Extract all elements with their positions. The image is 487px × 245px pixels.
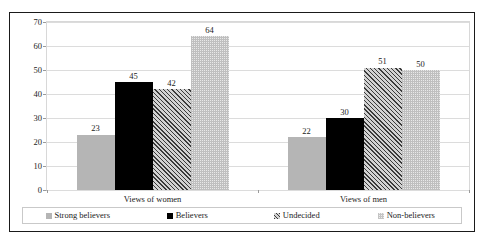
category-axis-tick xyxy=(258,190,259,193)
bar-value-label: 23 xyxy=(91,124,100,133)
chart-screenshot: 010203040506070 2345426422305150 Views o… xyxy=(0,0,487,245)
bar-value-label: 51 xyxy=(378,57,387,66)
legend-swatch-undecided-icon xyxy=(274,213,280,219)
y-axis-tick-label: 0 xyxy=(38,186,42,195)
category-axis-label: Views of women xyxy=(124,195,182,204)
bar: 42 xyxy=(153,89,191,190)
category-axis-tick xyxy=(469,190,470,193)
y-axis-tick-mark xyxy=(43,190,46,191)
legend-label: Strong believers xyxy=(55,211,110,220)
bar: 64 xyxy=(191,36,229,190)
chart-legend: Strong believers Believers Undecided Non… xyxy=(22,207,462,224)
chart-frame: 010203040506070 2345426422305150 Views o… xyxy=(9,12,475,232)
category-axis-label: Views of men xyxy=(340,195,387,204)
y-axis-tick-label: 70 xyxy=(34,18,43,27)
y-axis-tick-mark xyxy=(43,22,46,23)
bar-value-label: 30 xyxy=(340,108,349,117)
bar: 30 xyxy=(326,118,364,190)
y-axis-tick-mark xyxy=(43,142,46,143)
bar-value-label: 45 xyxy=(129,72,138,81)
legend-item: Non-believers xyxy=(352,211,462,220)
bar: 22 xyxy=(288,137,326,190)
y-axis-tick-mark xyxy=(43,70,46,71)
y-axis-tick-label: 60 xyxy=(34,42,43,51)
bar-value-label: 22 xyxy=(302,127,311,136)
bar: 50 xyxy=(402,70,440,190)
legend-label: Non-believers xyxy=(387,211,435,220)
y-axis-tick-label: 50 xyxy=(34,66,43,75)
bar: 23 xyxy=(77,135,115,190)
legend-item: Undecided xyxy=(242,211,352,220)
bar: 51 xyxy=(364,68,402,190)
y-axis-tick-label: 10 xyxy=(34,162,43,171)
legend-item: Believers xyxy=(133,211,243,220)
y-axis-tick-mark xyxy=(43,166,46,167)
plot-area: 010203040506070 2345426422305150 Views o… xyxy=(46,21,470,191)
bar-value-label: 42 xyxy=(167,79,176,88)
y-axis-tick-label: 40 xyxy=(34,90,43,99)
category-axis-tick xyxy=(47,190,48,193)
y-axis-tick-mark xyxy=(43,94,46,95)
legend-label: Believers xyxy=(176,211,208,220)
gridline xyxy=(47,46,469,47)
legend-label: Undecided xyxy=(283,211,320,220)
legend-swatch-believers-icon xyxy=(167,213,173,219)
y-axis-tick-label: 30 xyxy=(34,114,43,123)
legend-item: Strong believers xyxy=(23,211,133,220)
y-axis-tick-mark xyxy=(43,46,46,47)
bar-value-label: 50 xyxy=(416,60,425,69)
y-axis-tick-label: 20 xyxy=(34,138,43,147)
y-axis-tick-mark xyxy=(43,118,46,119)
bar-value-label: 64 xyxy=(205,26,214,35)
bar: 45 xyxy=(115,82,153,190)
legend-swatch-non-believers-icon xyxy=(378,213,384,219)
legend-swatch-strong-believers-icon xyxy=(46,213,52,219)
gridline xyxy=(47,22,469,23)
